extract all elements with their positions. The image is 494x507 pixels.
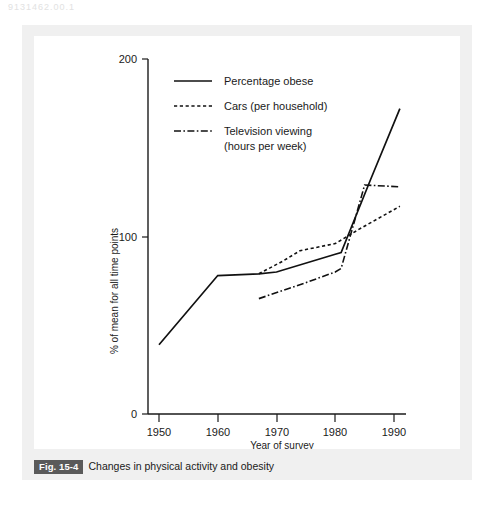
- figure-plot-area: 200 100 0 1950 1960 1970 1980 1990 Year …: [34, 36, 460, 449]
- x-tick-label-1980: 1980: [323, 426, 347, 438]
- figure-caption-bar: Fig. 15-4 Changes in physical activity a…: [22, 455, 472, 479]
- legend-label-percentage-obese: Percentage obese: [224, 75, 313, 87]
- y-tick-label-100: 100: [119, 231, 137, 243]
- page-corner-artifact: 9131462.00.1: [8, 2, 75, 12]
- y-axis-title: % of mean for all time points: [109, 228, 120, 354]
- series-line-television-viewing: [259, 185, 400, 299]
- figure-caption-text: Changes in physical activity and obesity: [88, 461, 274, 472]
- x-tick-label-1950: 1950: [147, 426, 171, 438]
- chart-axes: [142, 59, 406, 422]
- figure-frame: 200 100 0 1950 1960 1970 1980 1990 Year …: [22, 25, 472, 480]
- series-line-cars-per-household: [259, 206, 400, 273]
- y-tick-label-0: 0: [131, 408, 137, 420]
- y-tick-label-200: 200: [119, 53, 137, 65]
- x-axis-tick-labels: 1950 1960 1970 1980 1990: [147, 426, 406, 438]
- y-axis-tick-labels: 200 100 0: [119, 53, 137, 420]
- legend-label-television-viewing: Television viewing: [224, 125, 312, 137]
- chart-legend: Percentage obese Cars (per household) Te…: [174, 75, 327, 152]
- x-tick-label-1990: 1990: [382, 426, 406, 438]
- x-axis-title: Year of survey: [250, 440, 314, 449]
- legend-label-television-viewing-sub: (hours per week): [224, 140, 307, 152]
- legend-label-cars-per-household: Cars (per household): [224, 100, 327, 112]
- figure-number-badge: Fig. 15-4: [34, 460, 83, 474]
- chart-svg: 200 100 0 1950 1960 1970 1980 1990 Year …: [34, 36, 460, 449]
- x-tick-label-1960: 1960: [206, 426, 230, 438]
- x-tick-label-1970: 1970: [265, 426, 289, 438]
